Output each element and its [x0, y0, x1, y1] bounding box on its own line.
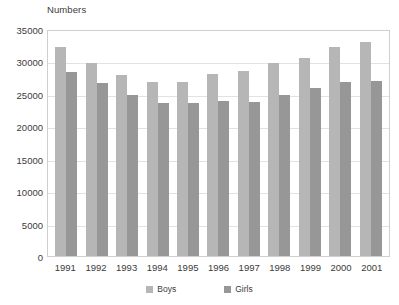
bar-chart: Numbers 05000100001500020000250003000035… — [0, 0, 399, 305]
bar-girls-1999 — [310, 88, 321, 256]
bar-girls-1995 — [188, 103, 199, 256]
bar-girls-1997 — [249, 102, 260, 256]
legend-swatch-icon — [224, 286, 231, 293]
bar-boys-1991 — [55, 47, 66, 256]
bar-boys-1998 — [268, 63, 279, 256]
bar-group — [51, 31, 81, 256]
y-axis-tick-label: 15000 — [17, 154, 43, 165]
x-axis-tick-label: 1991 — [50, 259, 81, 277]
x-axis-tick-label: 1995 — [173, 259, 204, 277]
bar-group — [142, 31, 172, 256]
bar-girls-1998 — [279, 95, 290, 256]
bar-girls-1992 — [97, 83, 108, 256]
bar-boys-1994 — [147, 82, 158, 256]
bar-boys-1993 — [116, 75, 127, 256]
y-axis-tick-label: 10000 — [17, 187, 43, 198]
bar-group — [264, 31, 294, 256]
bar-girls-1993 — [127, 95, 138, 256]
y-axis-title: Numbers — [47, 4, 86, 15]
y-axis-tick-label: 35000 — [17, 25, 43, 36]
bar-girls-2000 — [340, 82, 351, 256]
bar-boys-2001 — [360, 42, 371, 256]
x-axis-tick-label: 1992 — [81, 259, 112, 277]
bar-group — [203, 31, 233, 256]
y-axis-tick-label: 0 — [38, 252, 43, 263]
bar-group — [356, 31, 386, 256]
x-axis-tick-labels: 1991199219931994199519961997199819992000… — [47, 259, 390, 277]
bar-boys-1999 — [299, 58, 310, 256]
x-axis-tick-label: 1994 — [142, 259, 173, 277]
legend-swatch-icon — [146, 286, 153, 293]
x-axis-tick-label: 1993 — [111, 259, 142, 277]
bar-group — [173, 31, 203, 256]
x-axis-tick-label: 2000 — [326, 259, 357, 277]
y-axis-tick-label: 20000 — [17, 122, 43, 133]
x-axis-tick-label: 1998 — [264, 259, 295, 277]
legend-item-girls: Girls — [224, 284, 252, 294]
y-axis-tick-label: 25000 — [17, 89, 43, 100]
bar-girls-2001 — [371, 81, 382, 256]
y-axis-tick-labels: 05000100001500020000250003000035000 — [0, 0, 47, 305]
x-axis-tick-label: 1997 — [234, 259, 265, 277]
legend-label: Girls — [235, 284, 252, 294]
x-axis-tick-label: 2001 — [356, 259, 387, 277]
bar-boys-1997 — [238, 71, 249, 256]
bar-boys-1995 — [177, 82, 188, 256]
bar-group — [234, 31, 264, 256]
plot-area — [47, 30, 390, 257]
legend: BoysGirls — [0, 284, 399, 294]
bar-boys-1992 — [86, 63, 97, 256]
x-axis-tick-label: 1999 — [295, 259, 326, 277]
x-axis-tick-label: 1996 — [203, 259, 234, 277]
bar-group — [112, 31, 142, 256]
legend-item-boys: Boys — [146, 284, 176, 294]
y-axis-tick-label: 5000 — [22, 219, 43, 230]
y-axis-tick-label: 30000 — [17, 57, 43, 68]
bar-groups — [48, 31, 389, 256]
bar-group — [81, 31, 111, 256]
bar-girls-1994 — [158, 103, 169, 256]
bar-girls-1991 — [66, 72, 77, 256]
bar-group — [325, 31, 355, 256]
bar-group — [295, 31, 325, 256]
bar-girls-1996 — [218, 101, 229, 256]
bar-boys-1996 — [207, 74, 218, 256]
legend-label: Boys — [157, 284, 176, 294]
bar-boys-2000 — [329, 47, 340, 256]
